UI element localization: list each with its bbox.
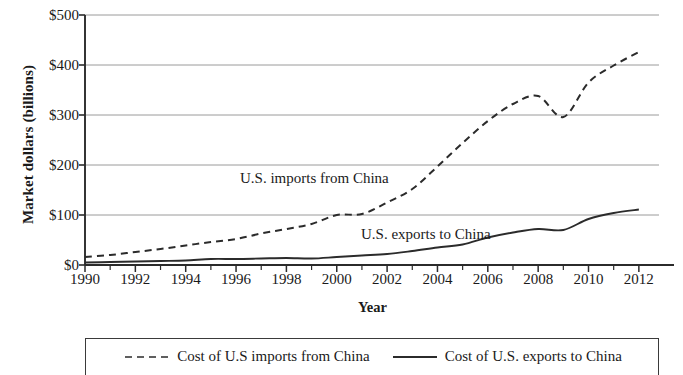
legend-item-exports: Cost of U.S. exports to China (392, 348, 622, 365)
legend-label-exports: Cost of U.S. exports to China (445, 348, 622, 365)
chart-figure: Market dollars (billions) Year $0$100$20… (0, 0, 683, 375)
legend-entries: Cost of U.S imports from China Cost of U… (86, 348, 660, 365)
legend-label-imports: Cost of U.S imports from China (177, 348, 370, 365)
legend-swatch-solid (392, 352, 438, 362)
annotation-exports: U.S. exports to China (361, 227, 491, 242)
plot-area (0, 0, 683, 375)
legend-item-imports: Cost of U.S imports from China (124, 348, 370, 365)
annotation-imports: U.S. imports from China (240, 171, 389, 186)
legend-swatch-dashed (124, 352, 170, 362)
chart-legend: Cost of U.S imports from China Cost of U… (85, 338, 659, 375)
